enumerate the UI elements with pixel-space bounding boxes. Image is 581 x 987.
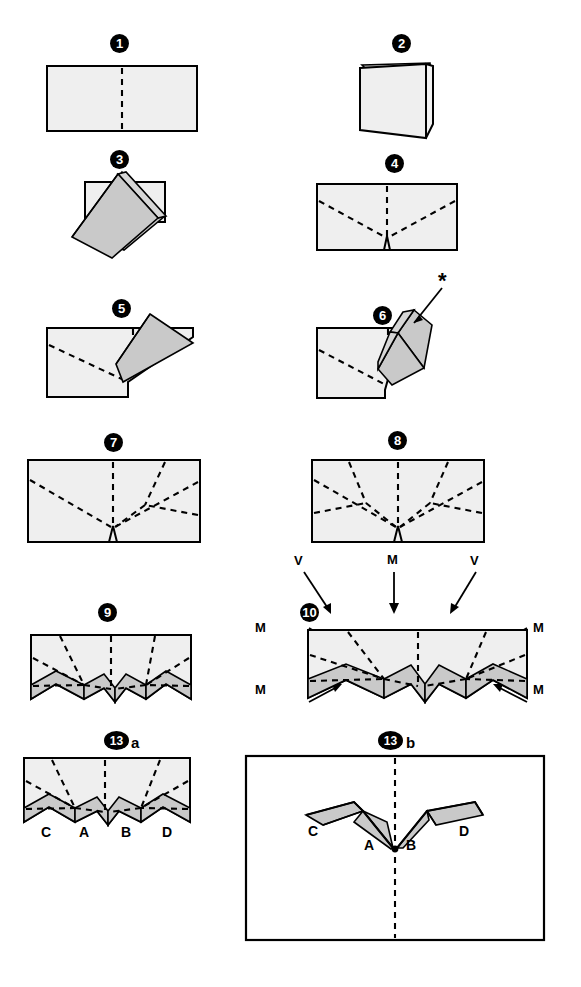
flap-label-a-13b: A [364, 837, 374, 853]
step-13b-panel: 13 b C A B D [230, 725, 581, 955]
step-1-diagram [0, 0, 290, 150]
step-9-diagram [0, 595, 270, 715]
step-4-panel: 4 [290, 150, 581, 275]
flap-label-c-13a: C [41, 824, 51, 840]
step-2-diagram [290, 0, 581, 150]
step-6-badge: 6 [373, 306, 392, 325]
flap-label-b-13a: B [121, 824, 131, 840]
fold-marker-m-left-lower: M [255, 682, 266, 697]
flap-label-c-13b: C [308, 823, 318, 839]
flap-label-d-13b: D [459, 823, 469, 839]
step-4-badge: 4 [385, 154, 404, 173]
step-7-badge: 7 [104, 433, 123, 452]
fold-marker-m-left-upper: M [255, 620, 266, 635]
step-6-panel: 6 * [290, 270, 581, 410]
step-13b-badge: 13 [378, 731, 403, 750]
step-4-diagram [290, 150, 581, 275]
step-5-badge: 5 [112, 299, 131, 318]
instruction-sheet: 1 2 3 4 [0, 0, 581, 987]
step-8-diagram [290, 425, 581, 555]
step-8-panel: 8 [290, 425, 581, 555]
fold-marker-v-top-left: V [294, 553, 303, 568]
step-8-badge: 8 [388, 431, 407, 450]
step-7-diagram [0, 425, 290, 555]
step-9-panel: 9 [0, 595, 270, 715]
asterisk-marker: * [438, 270, 447, 292]
step-10-badge: 10 [300, 603, 319, 622]
fold-marker-v-top-right: V [470, 553, 479, 568]
step-1-panel: 1 [0, 0, 290, 150]
fold-marker-m-right-lower: M [533, 682, 544, 697]
flap-label-d-13a: D [162, 824, 172, 840]
step-13b-sublabel: b [406, 734, 415, 751]
step-3-diagram [0, 150, 290, 275]
step-13a-panel: 13 a C A B D [0, 725, 225, 855]
step-3-badge: 3 [110, 150, 129, 169]
step-2-panel: 2 [290, 0, 581, 150]
flap-label-b-13b: B [406, 837, 416, 853]
step-3-panel: 3 [0, 150, 290, 275]
step-13a-badge: 13 [104, 731, 129, 750]
fold-marker-m-right-upper: M [533, 620, 544, 635]
step-2-badge: 2 [392, 34, 411, 53]
step-10-panel: 10 V M V M M M M [255, 550, 581, 720]
step-6-diagram [290, 270, 581, 410]
fold-marker-m-top-center: M [387, 552, 398, 567]
step-13a-sublabel: a [131, 734, 139, 751]
step-9-badge: 9 [98, 603, 117, 622]
step-7-panel: 7 [0, 425, 290, 555]
step-5-diagram [0, 285, 290, 410]
step-5-panel: 5 [0, 285, 290, 410]
flap-label-a-13a: A [79, 824, 89, 840]
step-1-badge: 1 [110, 34, 129, 53]
